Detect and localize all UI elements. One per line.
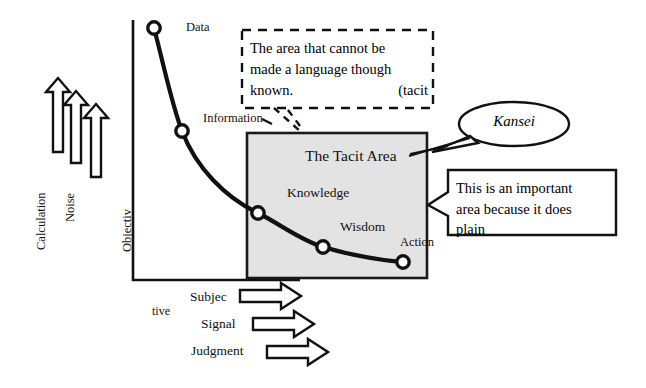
curve-point-knowledge: [252, 207, 264, 219]
important-note-line2: area because it does: [456, 199, 608, 220]
important-note-callout-text: This is an important area because it doe…: [456, 178, 608, 240]
tacit-note-line1: The area that cannot be: [250, 38, 428, 59]
kansei-bubble-tail: [432, 136, 478, 152]
diagram-canvas: Data Information The Tacit Area Knowledg…: [0, 0, 646, 388]
curve-point-information: [176, 125, 188, 137]
label-judgment: Judgment: [191, 343, 244, 359]
label-action: Action: [400, 235, 434, 249]
tacit-note-line3-left: known.: [250, 80, 293, 101]
information-pointer: [262, 119, 272, 124]
curve-point-data: [148, 22, 160, 34]
tacit-note-callout-text: The area that cannot be made a language …: [250, 38, 428, 101]
label-knowledge: Knowledge: [287, 185, 349, 201]
tacit-note-line2: made a language though: [250, 59, 428, 80]
label-calculation: Calculation: [34, 192, 49, 250]
label-objectiv-axis: Objectiv: [120, 209, 135, 252]
label-signal: Signal: [201, 316, 236, 332]
bottom-right-arrow-subjective: [240, 283, 301, 309]
important-note-line1: This is an important: [456, 178, 608, 199]
important-note-line3: plain: [456, 219, 608, 240]
bottom-right-arrow-judgment: [267, 339, 328, 365]
curve-point-action: [397, 256, 409, 268]
label-the-tacit-area: The Tacit Area: [305, 147, 397, 165]
tacit-note-line3-right: (tacit: [398, 80, 428, 101]
tacit-note-callout-tail-2: [274, 108, 300, 131]
left-up-arrow-noise: [64, 91, 88, 163]
bottom-right-arrow-signal: [253, 311, 314, 337]
left-up-arrow-objectiv: [84, 104, 108, 177]
curve-point-wisdom: [317, 241, 329, 253]
left-up-arrow-calculation: [46, 78, 70, 152]
kansei-bubble-text: Kansei: [469, 113, 559, 130]
label-information: Information: [203, 111, 263, 125]
label-data: Data: [186, 20, 210, 34]
label-noise: Noise: [63, 193, 78, 222]
label-wisdom: Wisdom: [340, 219, 385, 235]
tacit-note-line3: known. (tacit: [250, 80, 428, 101]
label-subjective-part2: tive: [152, 305, 170, 319]
label-subjective-part1: Subjec: [190, 289, 227, 305]
